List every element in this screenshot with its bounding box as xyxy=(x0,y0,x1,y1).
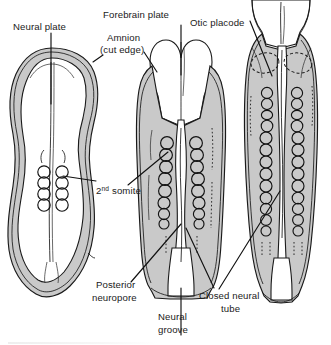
embryo-diagram-canvas: Neural plate Forebrain plate Amnion (cut… xyxy=(0,0,331,345)
label-otic-placode: Otic placode xyxy=(190,17,245,28)
label-2nd-somite: 2ndsomite xyxy=(96,185,141,197)
embryo-right xyxy=(244,0,317,303)
label-neural-groove-line1: Neural xyxy=(158,311,187,322)
label-somite-ordinal: nd xyxy=(101,185,109,192)
leader-amnion-left xyxy=(93,55,103,62)
label-closed-neural-tube-line2: tube xyxy=(221,303,240,314)
label-neural-plate: Neural plate xyxy=(13,21,66,32)
label-neural-groove-line2: groove xyxy=(158,324,188,335)
label-posterior-neuropore-line2: neuropore xyxy=(92,292,137,303)
label-amnion-line2: (cut edge) xyxy=(100,44,144,55)
cropped-caption-sliver xyxy=(8,342,158,344)
label-closed-neural-tube-line1: Closed neural xyxy=(199,290,260,301)
embryo-right-posterior-neuropore xyxy=(271,258,292,300)
embryo-left-neural-plate xyxy=(18,58,86,282)
label-amnion-line1: Amnion xyxy=(107,32,140,43)
label-somite-word: somite xyxy=(112,185,141,196)
neurulation-figure: Neural plate Forebrain plate Amnion (cut… xyxy=(0,0,331,345)
label-posterior-neuropore-line1: Posterior xyxy=(96,279,136,290)
svg-text:2ndsomite: 2ndsomite xyxy=(96,185,141,197)
label-forebrain-plate: Forebrain plate xyxy=(103,9,169,20)
embryo-left xyxy=(8,48,98,297)
